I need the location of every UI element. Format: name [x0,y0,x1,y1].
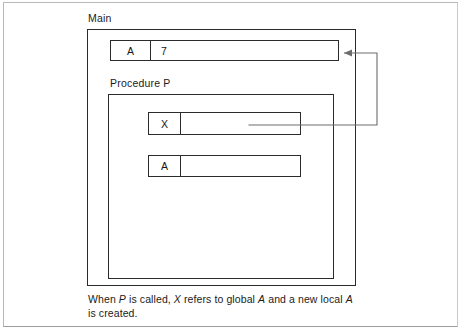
pointer-arrow-overlay [0,0,464,335]
caption-text-1: When [88,293,119,305]
scope-diagram: Main A 7 Procedure P X A [0,0,464,335]
caption-em-a-local: A [346,293,353,305]
caption-text-5: is created. [88,307,138,319]
caption-text-2: is called, [126,293,174,305]
arrowhead-icon [344,50,352,57]
caption-text-4: and a new local [265,293,346,305]
pointer-arrow-path [249,53,378,125]
caption-em-x: X [174,293,181,305]
caption: When P is called, X refers to global A a… [88,293,388,320]
caption-text-3: refers to global [181,293,258,305]
caption-em-p: P [119,293,126,305]
page: Main A 7 Procedure P X A When P [0,0,464,335]
